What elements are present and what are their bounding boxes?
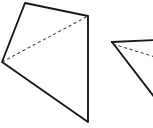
geometry-diagram [0, 0, 153, 128]
figure-canvas [0, 0, 153, 128]
